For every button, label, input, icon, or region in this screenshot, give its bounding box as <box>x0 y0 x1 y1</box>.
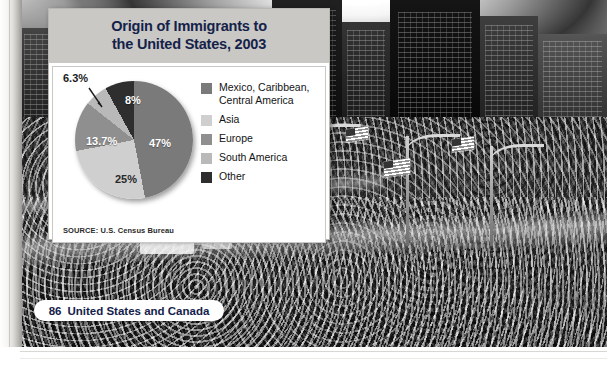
legend-label: Asia <box>219 113 239 126</box>
legend-label: South America <box>219 151 287 164</box>
chart-title-line-2: the United States, 2003 <box>112 36 266 52</box>
pie-label-south-america: 6.3% <box>63 72 88 84</box>
chart-title-line-1: Origin of Immigrants to <box>111 18 267 34</box>
section-title: United States and Canada <box>67 305 209 317</box>
pie-label-other: 8% <box>125 94 141 106</box>
page-footer-text: 86United States and Canada <box>49 305 210 317</box>
pie-label-asia: 25% <box>115 173 137 185</box>
legend-item-mexico: Mexico, Caribbean,Central America <box>201 81 321 107</box>
page-number: 86 <box>49 305 62 317</box>
legend-item-other: Other <box>201 170 321 183</box>
page-bottom-rule-secondary <box>20 358 607 359</box>
chart-legend: Mexico, Caribbean,Central America Asia E… <box>201 81 321 189</box>
pie-chart: 47% 25% 13.7% 6.3% 8% <box>75 81 197 203</box>
legend-label: Other <box>219 170 245 183</box>
page-footer-pill: 86United States and Canada <box>34 300 224 321</box>
chart-source-note: SOURCE: U.S. Census Bureau <box>63 226 174 235</box>
legend-label: Mexico, Caribbean,Central America <box>219 81 309 107</box>
pie-label-europe: 13.7% <box>86 135 117 147</box>
legend-item-europe: Europe <box>201 132 321 145</box>
page-gutter <box>0 0 22 350</box>
legend-label-line-2: Central America <box>219 94 294 106</box>
pie-label-mexico: 47% <box>149 137 171 149</box>
legend-item-south-america: South America <box>201 151 321 164</box>
page-title: Origin of Immigrants to the United State… <box>111 18 267 53</box>
textbook-page: Origin of Immigrants to the United State… <box>0 0 607 366</box>
legend-item-asia: Asia <box>201 113 321 126</box>
legend-swatch-icon <box>201 134 212 145</box>
page-bottom-margin <box>0 347 607 366</box>
page-gutter-rule <box>9 0 10 350</box>
legend-swatch-icon <box>201 115 212 126</box>
chart-body: 47% 25% 13.7% 6.3% 8% Mexico, Caribbean,… <box>52 66 326 243</box>
legend-swatch-icon <box>201 172 212 183</box>
lamp-arm <box>490 144 544 173</box>
legend-label-line-1: Mexico, Caribbean, <box>219 81 309 93</box>
page-bottom-rule <box>20 351 607 352</box>
chart-title-band: Origin of Immigrants to the United State… <box>49 9 329 63</box>
legend-swatch-icon <box>201 153 212 164</box>
chart-card: Origin of Immigrants to the United State… <box>48 8 330 240</box>
legend-swatch-icon <box>201 83 212 94</box>
legend-label: Europe <box>219 132 253 145</box>
